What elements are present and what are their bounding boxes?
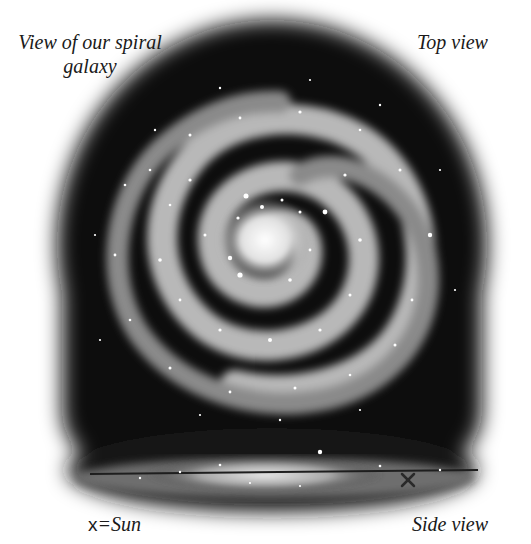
legend-equals: = xyxy=(98,513,112,535)
title-line-1: View of our spiral xyxy=(4,30,176,54)
galaxy-diagram: View of our spiral galaxy Top view x=Sun… xyxy=(0,0,531,544)
legend-symbol: x xyxy=(88,514,98,535)
legend-meaning: Sun xyxy=(111,513,141,535)
figure-title: View of our spiral galaxy xyxy=(4,30,176,78)
top-view-label: Top view xyxy=(417,30,488,54)
title-line-2: galaxy xyxy=(4,54,176,78)
side-view-label: Side view xyxy=(412,512,488,536)
sun-legend: x=Sun xyxy=(88,512,141,537)
galaxy-illustration xyxy=(0,0,531,544)
galactic-core xyxy=(217,196,313,284)
